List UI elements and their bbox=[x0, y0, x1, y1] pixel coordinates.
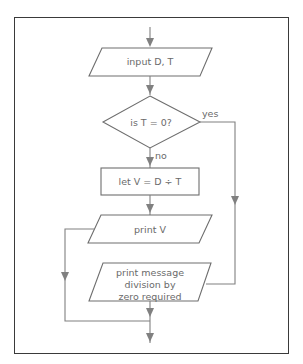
print-v-label: print V bbox=[134, 224, 166, 235]
decision-label: is T = 0? bbox=[130, 117, 172, 128]
print-message-node: print message division by zero required bbox=[89, 263, 211, 302]
print-message-line-3: zero required bbox=[118, 291, 181, 302]
arrow-down-icon bbox=[146, 308, 154, 317]
decision-node: is T = 0? bbox=[103, 96, 200, 148]
yes-edge-label: yes bbox=[202, 108, 218, 119]
process-node: let V = D ÷ T bbox=[101, 168, 199, 195]
flowchart: input D, T is T = 0? yes no let V = D ÷ … bbox=[0, 0, 303, 364]
arrow-down-icon bbox=[231, 196, 239, 205]
input-node: input D, T bbox=[89, 48, 212, 76]
print-message-line-1: print message bbox=[116, 267, 184, 278]
input-label: input D, T bbox=[127, 56, 174, 67]
yes-branch-connector bbox=[200, 122, 235, 284]
arrow-down-icon bbox=[146, 157, 154, 166]
print-message-line-2: division by bbox=[124, 279, 175, 290]
process-label: let V = D ÷ T bbox=[119, 176, 182, 187]
arrow-down-icon bbox=[146, 333, 154, 342]
arrow-down-icon bbox=[61, 272, 69, 281]
no-edge-label: no bbox=[155, 150, 167, 161]
arrow-down-icon bbox=[146, 204, 154, 213]
arrow-down-icon bbox=[146, 85, 154, 94]
print-v-node: print V bbox=[88, 215, 212, 243]
arrow-down-icon bbox=[146, 38, 154, 47]
